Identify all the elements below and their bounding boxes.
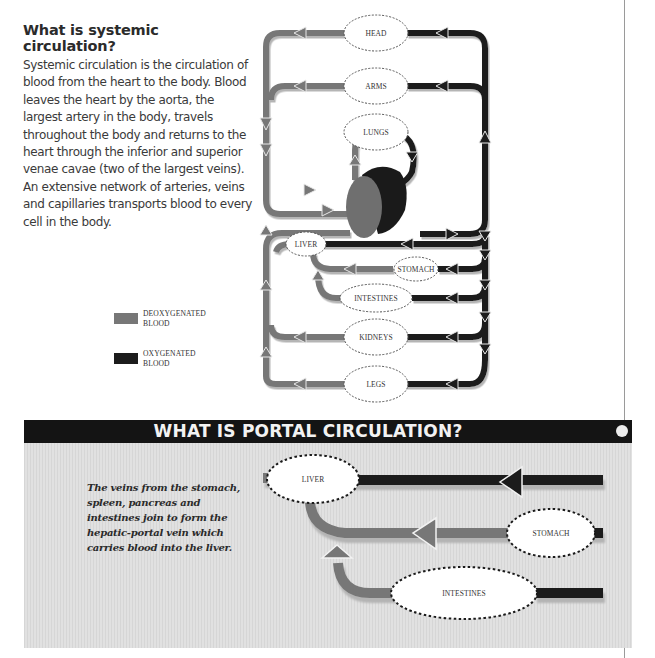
arrow-left-icon [413, 518, 436, 549]
portal-circulation-diagram: LIVER STOMACH INTESTINES [0, 0, 655, 658]
portal-label-intestines: INTESTINES [442, 589, 486, 598]
arrow-up-icon [322, 545, 352, 558]
portal-label-stomach: STOMACH [532, 529, 570, 538]
portal-label-liver: LIVER [302, 475, 325, 484]
arrow-left-icon [500, 467, 522, 497]
